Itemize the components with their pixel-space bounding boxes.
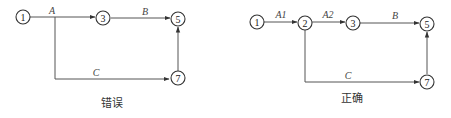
svg-text:1: 1 (21, 12, 26, 23)
node-1: 1 (250, 15, 264, 29)
svg-text:7: 7 (176, 73, 181, 84)
network-diagrams: A B C 1 3 5 7 错误 A1 (0, 0, 451, 118)
svg-text:1: 1 (255, 17, 260, 28)
node-3: 3 (96, 11, 110, 25)
svg-text:2: 2 (303, 18, 308, 29)
node-2: 2 (298, 16, 312, 30)
edge-label-c: C (345, 70, 352, 81)
caption-wrong: 错误 (101, 96, 123, 110)
edge-label-a1: A1 (274, 9, 286, 20)
node-5: 5 (171, 12, 185, 26)
svg-text:3: 3 (101, 13, 106, 24)
edge-c (305, 30, 419, 82)
node-7: 7 (171, 71, 185, 85)
node-3: 3 (346, 16, 360, 30)
node-7: 7 (420, 75, 434, 89)
node-1: 1 (16, 10, 30, 24)
svg-text:5: 5 (425, 19, 430, 30)
diagram-wrong: A B C 1 3 5 7 错误 (16, 5, 185, 110)
edge-label-c: C (93, 67, 100, 78)
svg-text:3: 3 (351, 18, 356, 29)
edge-label-a: A (48, 5, 56, 16)
edge-label-b: B (142, 6, 148, 17)
edge-label-b: B (392, 10, 398, 21)
node-5: 5 (420, 17, 434, 31)
caption-correct: 正确 (341, 92, 363, 105)
svg-text:5: 5 (176, 14, 181, 25)
diagram-correct: A1 A2 B C 1 2 3 5 7 正确 (250, 9, 434, 105)
edge-label-a2: A2 (321, 9, 333, 20)
svg-text:7: 7 (425, 77, 430, 88)
